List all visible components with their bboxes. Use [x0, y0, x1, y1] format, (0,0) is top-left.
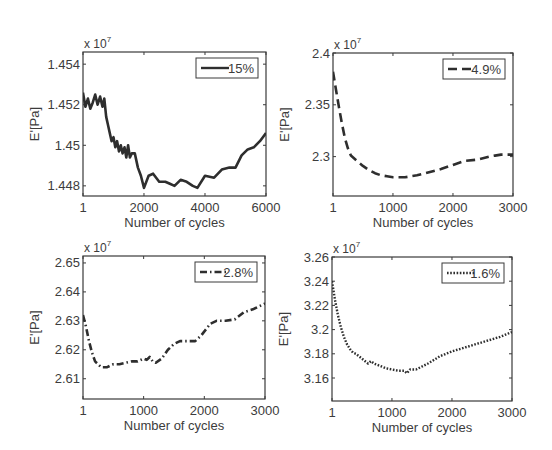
- x-tick-label: 2000: [190, 403, 219, 418]
- y-axis-label: E'[Pa]: [276, 312, 291, 346]
- data-series-line: [83, 304, 265, 368]
- legend: 1.6%: [442, 263, 504, 283]
- data-series-line: [83, 93, 266, 188]
- y-tick-label: 3.18: [304, 346, 329, 361]
- y-tick-label: 2.4: [312, 46, 330, 61]
- y-exponent-label: x 107: [333, 240, 361, 256]
- x-tick-label: 6000: [252, 200, 281, 215]
- subplot-15-percent: 12000400060001.4481.451.4521.454x 107Num…: [27, 35, 280, 230]
- x-tick-label: 1: [328, 405, 335, 420]
- y-exponent-label: x 107: [84, 239, 112, 255]
- legend: 4.9%: [443, 59, 505, 79]
- y-tick-label: 1.448: [47, 178, 80, 193]
- y-axis-label: E'[Pa]: [27, 107, 42, 141]
- data-series-line: [332, 281, 512, 373]
- x-tick-label: 3000: [251, 403, 280, 418]
- subplot-2-8-percent: 11000200030002.612.622.632.642.65x 107Nu…: [27, 239, 279, 433]
- x-tick-label: 1: [79, 200, 86, 215]
- y-tick-label: 1.454: [47, 57, 80, 72]
- y-tick-label: 3.22: [304, 298, 329, 313]
- y-tick-label: 3.2: [311, 322, 329, 337]
- y-tick-label: 2.61: [55, 371, 80, 386]
- y-axis-label: E'[Pa]: [277, 107, 292, 141]
- y-tick-label: 1.452: [47, 97, 80, 112]
- x-axis-label: Number of cycles: [124, 418, 225, 433]
- x-axis-label: Number of cycles: [373, 215, 474, 230]
- x-axis-label: Number of cycles: [372, 420, 473, 435]
- x-tick-label: 2000: [438, 405, 467, 420]
- x-tick-label: 1000: [377, 405, 406, 420]
- x-tick-label: 1: [329, 200, 336, 215]
- x-tick-label: 4000: [191, 200, 220, 215]
- x-tick-label: 1: [79, 403, 86, 418]
- y-tick-label: 3.16: [304, 371, 329, 386]
- legend-label: 15%: [228, 61, 254, 76]
- x-tick-label: 1000: [129, 403, 158, 418]
- subplot-4-9-percent: 11000200030002.32.352.4x 107Number of cy…: [277, 36, 527, 230]
- y-axis-label: E'[Pa]: [27, 310, 42, 344]
- y-tick-label: 2.35: [305, 97, 330, 112]
- data-series-line: [333, 72, 513, 178]
- x-tick-label: 1000: [378, 200, 407, 215]
- figure: 12000400060001.4481.451.4521.454x 107Num…: [0, 0, 552, 450]
- legend-label: 4.9%: [471, 62, 501, 77]
- y-exponent-label: x 107: [334, 36, 362, 52]
- y-tick-label: 3.24: [304, 274, 329, 289]
- y-exponent-label: x 107: [84, 35, 112, 51]
- y-tick-label: 2.3: [312, 149, 330, 164]
- x-axis-label: Number of cycles: [124, 215, 225, 230]
- legend: 2.8%: [195, 262, 257, 282]
- y-tick-label: 2.65: [55, 255, 80, 270]
- subplot-1-6-percent: 11000200030003.163.183.23.223.243.26x 10…: [276, 240, 526, 435]
- y-tick-label: 2.64: [55, 284, 80, 299]
- x-tick-label: 3000: [498, 405, 527, 420]
- y-tick-label: 2.63: [55, 313, 80, 328]
- x-tick-label: 2000: [130, 200, 159, 215]
- legend: 15%: [196, 58, 258, 78]
- x-tick-label: 3000: [499, 200, 528, 215]
- x-tick-label: 2000: [439, 200, 468, 215]
- y-tick-label: 1.45: [55, 138, 80, 153]
- legend-label: 1.6%: [470, 266, 500, 281]
- y-tick-label: 3.26: [304, 250, 329, 265]
- y-tick-label: 2.62: [55, 342, 80, 357]
- legend-label: 2.8%: [223, 265, 253, 280]
